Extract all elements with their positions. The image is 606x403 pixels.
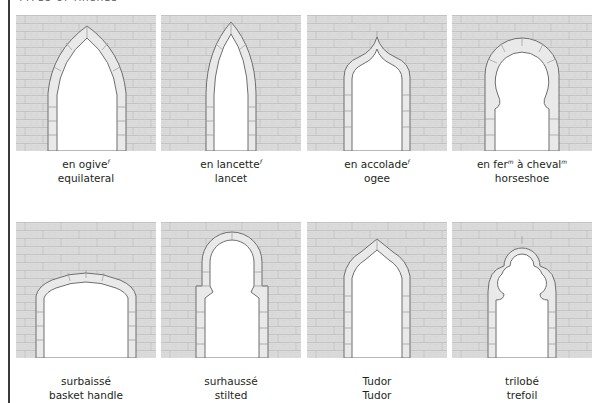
french-term: surhaussé xyxy=(158,374,304,388)
french-term: surbaissé xyxy=(13,374,159,388)
arch-trefoil xyxy=(452,222,592,358)
french-term: Tudor xyxy=(304,374,450,388)
arch-basket-handle xyxy=(16,222,156,358)
english-term: ogee xyxy=(304,171,450,185)
french-term: en accolade xyxy=(344,158,407,170)
caption-equilateral: en ogivef equilateral xyxy=(13,155,159,185)
arch-lancet xyxy=(161,15,301,151)
gender-marker: f xyxy=(408,158,410,165)
frame-border xyxy=(8,0,10,403)
caption-basket-handle: surbaissé basket handle xyxy=(13,374,159,402)
gender-marker: m xyxy=(561,158,567,165)
french-term: en fer xyxy=(477,158,508,170)
english-term: lancet xyxy=(158,171,304,185)
french-term: en lancette xyxy=(200,158,259,170)
gender-marker: f xyxy=(260,158,262,165)
caption-ogee: en accoladef ogee xyxy=(304,155,450,185)
french-term: en ogive xyxy=(62,158,107,170)
diagram-title: TYPES OF ARCHES xyxy=(18,0,118,3)
caption-tudor: Tudor Tudor xyxy=(304,374,450,402)
arch-stilted xyxy=(161,222,301,358)
arch-equilateral xyxy=(16,15,156,151)
caption-trefoil: trilobé trefoil xyxy=(449,374,595,402)
english-term: trefoil xyxy=(449,388,595,402)
english-term: horseshoe xyxy=(449,171,595,185)
caption-stilted: surhaussé stilted xyxy=(158,374,304,402)
french-term: trilobé xyxy=(449,374,595,388)
caption-horseshoe: en ferm à chevalm horseshoe xyxy=(449,155,595,185)
arch-ogee xyxy=(307,15,447,151)
caption-lancet: en lancettef lancet xyxy=(158,155,304,185)
english-term: stilted xyxy=(158,388,304,402)
arch-horseshoe xyxy=(452,15,592,151)
english-term: equilateral xyxy=(13,171,159,185)
french-term-extra: à cheval xyxy=(514,158,562,170)
english-term: Tudor xyxy=(304,388,450,402)
arch-tudor xyxy=(307,222,447,358)
gender-marker: f xyxy=(108,158,110,165)
english-term: basket handle xyxy=(13,388,159,402)
